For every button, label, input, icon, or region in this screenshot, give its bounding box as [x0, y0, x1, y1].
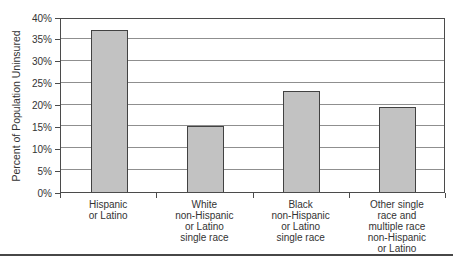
x-category-label-line: or Latino — [253, 221, 349, 232]
uninsured-bar-chart-figure: Percent of Population Uninsured 0%5%10%1… — [0, 0, 453, 268]
x-tick-mark — [253, 193, 254, 198]
x-category-label-line: race and — [349, 210, 445, 221]
y-tick-label: 40% — [0, 12, 52, 25]
y-tick-label: 10% — [0, 143, 52, 156]
y-tick-mark — [55, 83, 60, 84]
x-tick-mark — [349, 193, 350, 198]
bar — [187, 126, 224, 192]
y-tick-label: 5% — [0, 165, 52, 178]
x-category-label-line: non-Hispanic — [349, 232, 445, 243]
x-category-label-line: single race — [156, 232, 252, 243]
y-tick-mark — [55, 149, 60, 150]
x-category-label: Blacknon-Hispanicor Latinosingle race — [253, 199, 349, 243]
y-tick-mark — [55, 127, 60, 128]
x-tick-mark — [445, 193, 446, 198]
x-category-label-line: Other single — [349, 199, 445, 210]
x-category-label: Other singlerace andmultiple racenon-His… — [349, 199, 445, 254]
y-tick-mark — [55, 105, 60, 106]
y-tick-label: 25% — [0, 77, 52, 90]
x-category-label-line: non-Hispanic — [253, 210, 349, 221]
x-category-label-line: multiple race — [349, 221, 445, 232]
y-tick-label: 15% — [0, 121, 52, 134]
plot-area — [60, 18, 445, 193]
y-tick-label: 20% — [0, 99, 52, 112]
y-tick-label: 30% — [0, 55, 52, 68]
x-category-label: Whitenon-Hispanicor Latinosingle race — [156, 199, 252, 243]
x-category-label-line: White — [156, 199, 252, 210]
figure-bottom-rule — [0, 254, 453, 256]
y-tick-mark — [55, 18, 60, 19]
y-tick-mark — [55, 61, 60, 62]
x-category-label-line: Hispanic — [60, 199, 156, 210]
bar — [379, 107, 416, 192]
x-category-label-line: or Latino — [349, 243, 445, 254]
x-category-label-line: non-Hispanic — [156, 210, 252, 221]
x-category-label-line: Black — [253, 199, 349, 210]
x-category-label-line: single race — [253, 232, 349, 243]
x-category-label: Hispanicor Latino — [60, 199, 156, 221]
x-tick-mark — [156, 193, 157, 198]
y-tick-label: 0% — [0, 187, 52, 200]
bar — [91, 30, 128, 192]
bar — [283, 91, 320, 192]
x-tick-mark — [60, 193, 61, 198]
y-tick-mark — [55, 39, 60, 40]
y-tick-mark — [55, 171, 60, 172]
x-category-label-line: or Latino — [60, 210, 156, 221]
y-tick-label: 35% — [0, 33, 52, 46]
x-category-label-line: or Latino — [156, 221, 252, 232]
